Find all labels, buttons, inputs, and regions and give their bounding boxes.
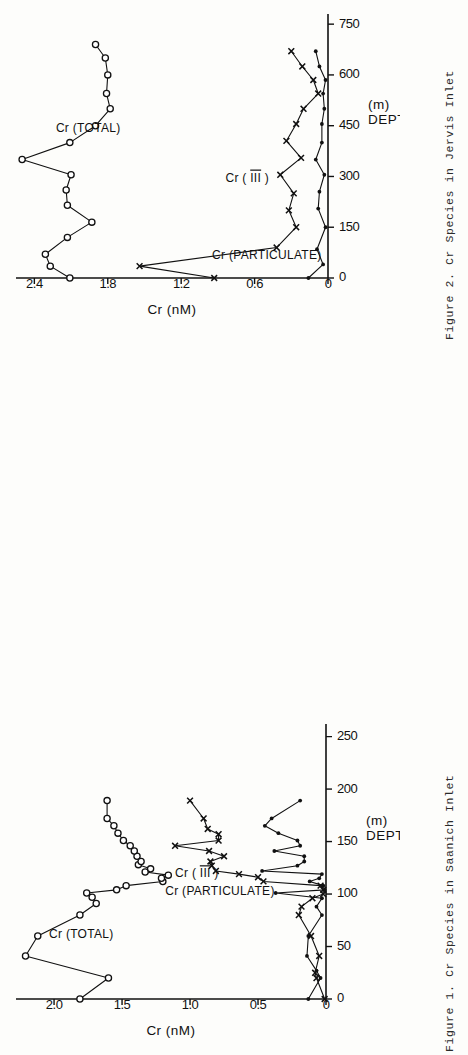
figure-2-caption: Figure 2. Cr Species in Jervis Inlet xyxy=(443,70,456,340)
x-marker xyxy=(288,48,294,54)
open-circle-marker xyxy=(77,996,83,1002)
filled-dot-marker xyxy=(263,824,267,828)
open-circle-marker xyxy=(22,953,28,959)
figure-1-chart: 05010015020025000.51.01.52.0Cr (nM)DEPTH… xyxy=(0,710,400,1055)
series-label: Cr (PARTICULATE) xyxy=(212,248,321,262)
y-tick-label: 0 xyxy=(325,276,332,291)
figure-1-block: 05010015020025000.51.01.52.0Cr (nM)DEPTH… xyxy=(0,355,468,710)
open-circle-marker xyxy=(64,234,70,240)
filled-dot-marker xyxy=(272,849,276,853)
series-line xyxy=(175,801,325,999)
filled-dot-marker xyxy=(314,49,318,53)
x-marker xyxy=(310,895,316,901)
x-axis-title: DEPTH(m) xyxy=(366,813,400,843)
x-tick-label: 750 xyxy=(339,16,359,31)
x-tick-label: 50 xyxy=(337,938,351,953)
open-circle-marker xyxy=(105,72,111,78)
x-marker xyxy=(301,106,307,112)
filled-dot-marker xyxy=(277,831,281,835)
filled-dot-marker xyxy=(306,934,310,938)
x-tick-label: 600 xyxy=(339,66,359,81)
filled-dot-marker xyxy=(307,276,311,280)
x-marker xyxy=(284,138,290,144)
open-circle-marker xyxy=(47,263,53,269)
x-marker xyxy=(291,190,297,196)
open-circle-marker xyxy=(92,41,98,47)
open-circle-marker xyxy=(158,875,164,881)
y-tick-label: 1.0 xyxy=(182,997,199,1012)
filled-dot-marker xyxy=(320,122,324,126)
x-tick-label: 250 xyxy=(337,728,357,743)
x-tick-label: 0 xyxy=(337,990,344,1005)
svg-text:(m): (m) xyxy=(368,97,390,112)
open-circle-marker xyxy=(115,830,121,836)
x-marker xyxy=(293,224,299,230)
open-circle-marker xyxy=(102,55,108,61)
series-2: Cr ( III ) xyxy=(172,798,327,1002)
y-tick-label: 1.5 xyxy=(114,997,131,1012)
filled-dot-marker xyxy=(318,65,322,69)
series-label: Cr (TOTAL) xyxy=(49,927,114,941)
x-tick-label: 450 xyxy=(339,117,359,132)
x-marker xyxy=(201,816,207,822)
open-circle-marker xyxy=(67,275,73,281)
series-line xyxy=(140,51,319,278)
filled-dot-marker xyxy=(270,817,274,821)
open-circle-marker xyxy=(111,823,117,829)
open-circle-marker xyxy=(42,251,48,257)
y-tick-label: 1.2 xyxy=(173,276,190,291)
y-axis-title: Cr (nM) xyxy=(146,1023,195,1038)
y-tick-label: 2.4 xyxy=(26,276,43,291)
filled-dot-marker xyxy=(260,869,264,873)
x-marker xyxy=(277,172,283,178)
svg-text:DEPTH: DEPTH xyxy=(368,112,400,127)
filled-dot-marker xyxy=(321,884,325,888)
filled-dot-marker xyxy=(302,860,306,864)
figure-2-plot: 015030045060075000.61.21.82.4Cr (nM)DEPT… xyxy=(16,14,400,317)
filled-dot-marker xyxy=(296,839,300,843)
open-circle-marker xyxy=(93,900,99,906)
x-tick-label: 200 xyxy=(337,781,357,796)
series-label: Cr ( III ) xyxy=(225,171,269,185)
open-circle-marker xyxy=(67,140,73,146)
x-marker xyxy=(298,155,304,161)
filled-dot-marker xyxy=(315,969,319,973)
series-3: Cr (PARTICULATE) xyxy=(212,49,327,280)
figure-1-plot: 05010015020025000.51.01.52.0Cr (nM)DEPTH… xyxy=(16,724,400,1038)
x-tick-label: 0 xyxy=(339,269,346,284)
series-label: Cr (PARTICULATE) xyxy=(165,884,274,898)
x-marker xyxy=(310,77,316,83)
x-axis-title: DEPTH(m) xyxy=(368,97,400,127)
series-line xyxy=(22,44,110,278)
open-circle-marker xyxy=(103,90,109,96)
filled-dot-marker xyxy=(323,888,327,892)
x-marker xyxy=(296,912,302,918)
filled-dot-marker xyxy=(322,107,326,111)
y-tick-label: 0.6 xyxy=(246,276,263,291)
open-circle-marker xyxy=(107,106,113,112)
filled-dot-marker xyxy=(302,854,306,858)
filled-dot-marker xyxy=(322,173,326,177)
open-circle-marker xyxy=(89,894,95,900)
svg-text:DEPTH: DEPTH xyxy=(366,828,400,843)
filled-dot-marker xyxy=(318,190,322,194)
filled-dot-marker xyxy=(321,263,325,267)
open-circle-marker xyxy=(148,866,154,872)
filled-dot-marker xyxy=(321,92,325,96)
filled-dot-marker xyxy=(306,997,310,1001)
figure-2-block: 015030045060075000.61.21.82.4Cr (nM)DEPT… xyxy=(0,0,468,355)
filled-dot-marker xyxy=(320,872,324,876)
figure-1-plot-area: 05010015020025000.51.01.52.0Cr (nM)DEPTH… xyxy=(0,710,400,1055)
filled-dot-marker xyxy=(324,78,328,82)
open-circle-marker xyxy=(89,219,95,225)
x-tick-label: 100 xyxy=(337,885,357,900)
x-marker xyxy=(187,798,193,804)
series-2: Cr ( III ) xyxy=(137,48,321,281)
filled-dot-marker xyxy=(317,876,321,880)
open-circle-marker xyxy=(35,933,41,939)
open-circle-marker xyxy=(127,843,133,849)
x-tick-label: 150 xyxy=(337,833,357,848)
open-circle-marker xyxy=(114,887,120,893)
x-tick-label: 300 xyxy=(339,168,359,183)
